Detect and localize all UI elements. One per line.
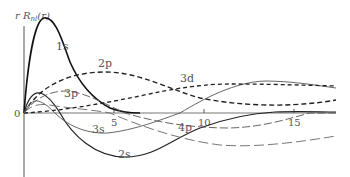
label-3p: 3p xyxy=(64,87,78,100)
label-3d: 3d xyxy=(180,72,194,85)
label-1s: 1s xyxy=(56,40,69,53)
y-axis-label: r Rnl(r) xyxy=(15,10,50,23)
label-2s: 2s xyxy=(118,148,131,161)
label-2p: 2p xyxy=(98,57,112,70)
label-4p: 4p xyxy=(178,121,192,134)
origin-label: 0 xyxy=(14,108,20,119)
curve-1s xyxy=(24,18,140,113)
label-3s: 3s xyxy=(92,123,105,136)
x-tick-label-5: 5 xyxy=(111,117,117,128)
radial-wavefunction-chart: 5 10 15 0 r Rnl(r) 1s 2p 3d 3p 3s 2s 4p xyxy=(0,0,350,177)
